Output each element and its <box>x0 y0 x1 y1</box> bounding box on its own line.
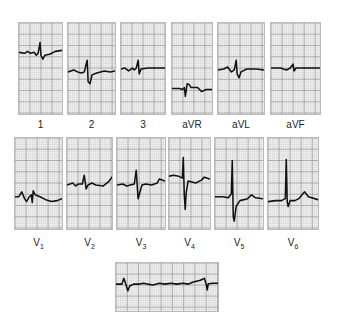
lead-panel-v1 <box>14 137 63 230</box>
lead-label-v1: V1 <box>14 237 64 250</box>
ecg-trace <box>116 278 218 290</box>
rhythm-strip <box>115 262 219 312</box>
lead-label-2: 2 <box>67 119 117 130</box>
lead-label-v5: V5 <box>214 237 264 250</box>
lead-label-3: 3 <box>118 119 168 130</box>
lead-label-v4: V4 <box>165 237 215 250</box>
lead-panel-avr <box>171 22 213 115</box>
lead-panel-avl <box>217 22 265 115</box>
lead-label-avf: aVF <box>271 119 321 130</box>
lead-panel-2 <box>67 22 116 115</box>
lead-panel-v5 <box>214 137 264 230</box>
lead-panel-3 <box>120 22 166 115</box>
lead-label-1: 1 <box>16 119 66 130</box>
ecg-trace <box>15 191 62 203</box>
ecg-trace <box>271 64 320 71</box>
lead-label-v2: V2 <box>65 237 115 250</box>
lead-panel-v2 <box>66 137 113 230</box>
lead-panel-v4 <box>168 137 211 230</box>
ecg-trace <box>169 158 210 210</box>
lead-label-v6: V6 <box>268 237 318 250</box>
lead-label-avr: aVR <box>167 119 217 130</box>
lead-panel-v6 <box>267 137 319 230</box>
ecg-trace <box>172 84 212 97</box>
lead-label-avl: aVL <box>216 119 266 130</box>
lead-panel-1 <box>18 22 63 115</box>
lead-panel-avf <box>270 22 321 115</box>
ecg-trace <box>218 60 264 78</box>
lead-panel-v3 <box>116 137 166 230</box>
lead-label-v3: V3 <box>116 237 166 250</box>
